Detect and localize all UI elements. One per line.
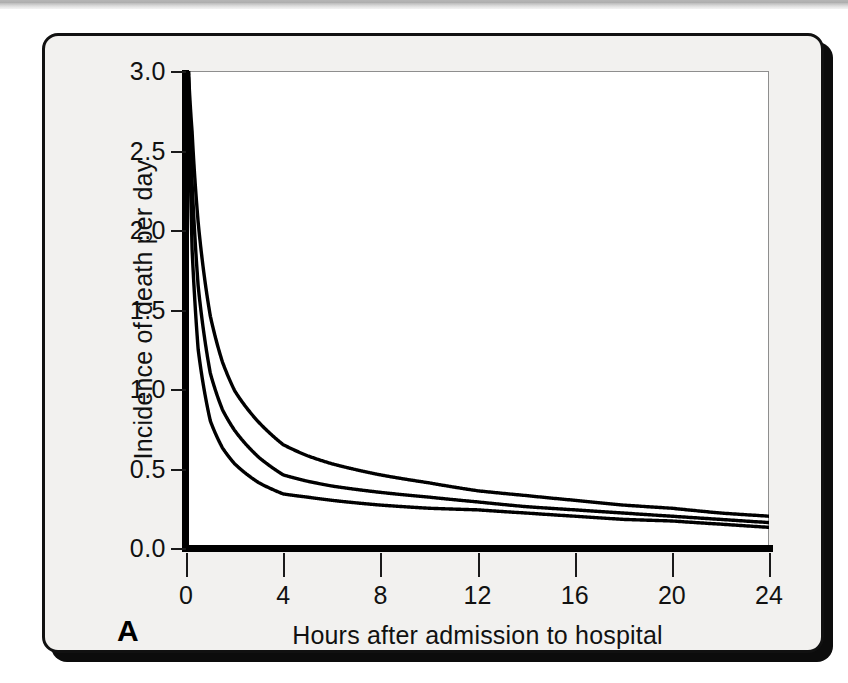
plot-area: 0.00.51.01.52.02.53.004812162024 (186, 71, 769, 548)
x-tick-label-12: 12 (464, 581, 492, 610)
x-tick-label-24: 24 (755, 581, 783, 610)
curve-2 (188, 71, 769, 523)
y-tick-0.5 (171, 469, 186, 471)
curve-3 (188, 71, 769, 527)
x-tick-24 (769, 553, 771, 577)
y-tick-label-3.0: 3.0 (130, 57, 166, 86)
y-tick-3.0 (171, 71, 186, 73)
x-tick-4 (283, 553, 285, 577)
y-tick-2.0 (171, 230, 186, 232)
y-tick-2.5 (171, 151, 186, 153)
curve-1 (188, 71, 769, 516)
y-tick-label-0.0: 0.0 (130, 534, 166, 563)
y-tick-label-0.5: 0.5 (130, 454, 166, 483)
panel-label: A (117, 614, 139, 648)
curve-series-group (186, 71, 769, 548)
x-tick-label-0: 0 (179, 581, 193, 610)
x-tick-8 (380, 553, 382, 577)
x-tick-16 (575, 553, 577, 577)
y-tick-1.0 (171, 389, 186, 391)
x-tick-12 (478, 553, 480, 577)
x-tick-0 (186, 553, 188, 577)
x-tick-label-8: 8 (373, 581, 387, 610)
figure-card: Incidence of death per day 0.00.51.01.52… (42, 33, 824, 653)
y-tick-1.5 (171, 310, 186, 312)
y-tick-0.0 (171, 548, 186, 550)
y-tick-label-2.5: 2.5 (130, 136, 166, 165)
y-tick-label-2.0: 2.0 (130, 216, 166, 245)
y-tick-label-1.0: 1.0 (130, 375, 166, 404)
x-tick-label-4: 4 (276, 581, 290, 610)
y-tick-label-1.5: 1.5 (130, 295, 166, 324)
x-tick-20 (672, 553, 674, 577)
x-tick-label-16: 16 (561, 581, 589, 610)
x-tick-label-20: 20 (658, 581, 686, 610)
scan-artifact-strip (0, 0, 848, 9)
x-axis-title: Hours after admission to hospital (186, 621, 769, 650)
